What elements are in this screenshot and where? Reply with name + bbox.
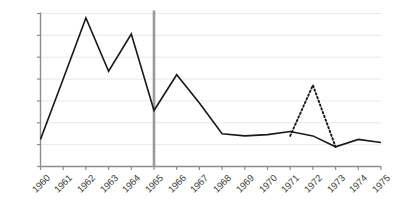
line-chart: $350$300$250$200$150$100$50$0 1960196119… — [0, 0, 396, 206]
x-axis-tick-labels: 1960196119621963196419651966196719681969… — [0, 0, 396, 206]
